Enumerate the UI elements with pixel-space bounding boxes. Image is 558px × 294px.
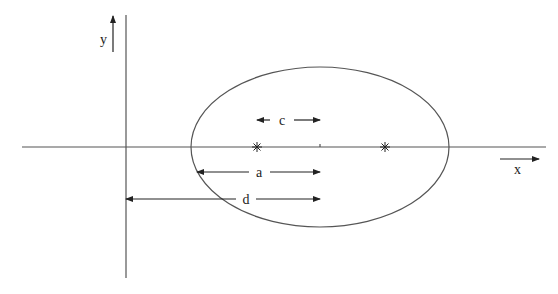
focus-left-icon: [252, 142, 262, 152]
focus-right-icon: [380, 142, 390, 152]
x-axis-label: x: [514, 162, 521, 177]
dimension-d-label: d: [243, 192, 250, 207]
dimension-c-label: c: [279, 113, 285, 128]
dimension-d: d: [126, 192, 320, 207]
ellipse-diagram: y x c a d: [0, 0, 558, 294]
dimension-c: c: [257, 113, 320, 128]
dimension-a: a: [197, 165, 320, 180]
dimension-a-label: a: [256, 165, 263, 180]
y-axis-label: y: [100, 32, 107, 47]
